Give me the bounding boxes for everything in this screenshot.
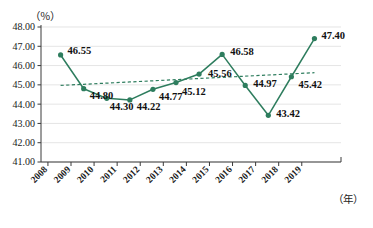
data-point-marker xyxy=(243,83,248,88)
x-tick-label-2014: 2014 xyxy=(167,164,188,185)
y-axis-unit-label: （％） xyxy=(30,11,60,22)
line-chart: 48.0047.0046.0045.0044.0043.0042.0041.00… xyxy=(0,0,373,228)
data-point-marker xyxy=(220,52,225,57)
data-point-marker xyxy=(58,52,63,57)
x-tick-label-2012: 2012 xyxy=(121,164,142,185)
y-tick-label: 41.00 xyxy=(13,156,36,167)
data-label-2013: 45.12 xyxy=(182,86,206,97)
x-tick-label-2009: 2009 xyxy=(52,164,73,185)
data-point-marker xyxy=(81,86,86,91)
data-label-2009: 44.80 xyxy=(90,90,114,101)
y-tick-labels-group: 48.0047.0046.0045.0044.0043.0042.0041.00 xyxy=(13,21,36,167)
x-tick-label-2018: 2018 xyxy=(260,164,281,185)
x-tick-label-2016: 2016 xyxy=(213,164,234,185)
data-markers-group xyxy=(58,36,317,118)
x-tick-label-2017: 2017 xyxy=(237,164,258,185)
data-label-2014: 45.56 xyxy=(208,68,232,79)
y-tick-label: 42.00 xyxy=(13,137,36,148)
data-point-marker xyxy=(196,71,201,76)
x-tick-label-2015: 2015 xyxy=(190,164,211,185)
x-tick-labels-group: 2008200920102011201220132014201520162017… xyxy=(29,164,304,185)
y-tick-label: 47.00 xyxy=(13,41,36,52)
chart-canvas: 48.0047.0046.0045.0044.0043.0042.0041.00… xyxy=(0,0,373,228)
x-tick-label-2019: 2019 xyxy=(283,164,304,185)
y-tick-label: 44.00 xyxy=(13,99,36,110)
y-tick-label: 48.00 xyxy=(13,21,36,32)
data-point-marker xyxy=(312,36,317,41)
x-tick-label-2011: 2011 xyxy=(98,164,118,184)
data-label-2018: 45.42 xyxy=(298,79,322,90)
x-axis-unit-label: （年） xyxy=(333,193,363,205)
data-point-marker xyxy=(266,113,271,118)
data-label-2015: 46.58 xyxy=(230,46,254,57)
y-tick-label: 46.00 xyxy=(13,60,36,71)
data-label-2011: 44.22 xyxy=(137,101,161,112)
y-tick-label: 43.00 xyxy=(13,118,36,129)
data-label-2012: 44.77 xyxy=(159,91,183,102)
x-tick-label-2013: 2013 xyxy=(144,164,165,185)
data-label-2016: 44.97 xyxy=(253,78,277,89)
y-tick-label: 45.00 xyxy=(13,79,36,90)
data-point-marker xyxy=(150,87,155,92)
data-point-marker xyxy=(173,80,178,85)
data-label-2008: 46.55 xyxy=(68,45,92,56)
data-point-marker xyxy=(289,74,294,79)
data-label-2019: 47.40 xyxy=(321,30,345,41)
data-label-2017: 43.42 xyxy=(276,108,300,119)
data-labels-group: 46.5544.8044.3044.2244.7745.1245.5646.58… xyxy=(68,30,345,120)
data-label-2010: 44.30 xyxy=(110,101,134,112)
x-tick-label-2010: 2010 xyxy=(75,164,96,185)
